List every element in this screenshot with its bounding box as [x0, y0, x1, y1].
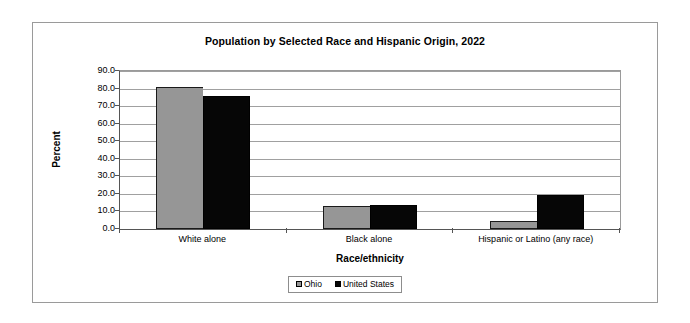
- y-axis-tick-label: 40.0: [75, 153, 115, 162]
- chart-title: Population by Selected Race and Hispanic…: [33, 35, 657, 47]
- x-axis-tick-label: Black alone: [346, 234, 393, 244]
- y-axis-tick-label: 90.0: [75, 66, 115, 75]
- y-axis-tick-label: 0.0: [75, 224, 115, 233]
- legend-label: United States: [343, 279, 394, 289]
- bar-ohio: [156, 87, 203, 229]
- bar-united-states: [203, 96, 250, 229]
- x-axis-tick-labels: White aloneBlack aloneHispanic or Latino…: [119, 234, 621, 250]
- x-axis-tick-mark: [619, 228, 620, 233]
- y-axis-tick-labels: 0.010.020.030.040.050.060.070.080.090.0: [71, 70, 115, 228]
- bar-united-states: [370, 205, 417, 229]
- x-axis-tick-label: White alone: [179, 234, 227, 244]
- y-axis-tick-label: 70.0: [75, 101, 115, 110]
- x-axis-tick-mark: [119, 228, 120, 233]
- bar-group: [287, 71, 454, 229]
- bar-united-states: [537, 195, 584, 229]
- chart-figure: Population by Selected Race and Hispanic…: [32, 22, 658, 303]
- y-axis-tick-label: 60.0: [75, 118, 115, 127]
- x-axis-title: Race/ethnicity: [119, 253, 621, 264]
- x-axis-tick-mark: [286, 228, 287, 233]
- y-axis-title-text: Percent: [51, 131, 62, 168]
- legend-entry-united-states: United States: [335, 279, 394, 289]
- chart-legend: OhioUnited States: [288, 276, 402, 293]
- legend-entry-ohio: Ohio: [296, 279, 322, 289]
- y-axis-tick-label: 50.0: [75, 136, 115, 145]
- plot-area: [119, 70, 621, 230]
- y-axis-tick-label: 20.0: [75, 188, 115, 197]
- y-axis-tick-label: 10.0: [75, 206, 115, 215]
- y-axis-tick-label: 80.0: [75, 83, 115, 92]
- bar-group: [120, 71, 287, 229]
- bar-ohio: [323, 206, 370, 229]
- legend-label: Ohio: [304, 279, 322, 289]
- x-axis-tick-mark: [452, 228, 453, 233]
- y-axis-tick-label: 30.0: [75, 171, 115, 180]
- x-axis-tick-label: Hispanic or Latino (any race): [478, 234, 593, 244]
- y-axis-title: Percent: [49, 70, 63, 228]
- legend-swatch-icon: [296, 281, 302, 287]
- bar-group: [453, 71, 620, 229]
- legend-swatch-icon: [335, 281, 341, 287]
